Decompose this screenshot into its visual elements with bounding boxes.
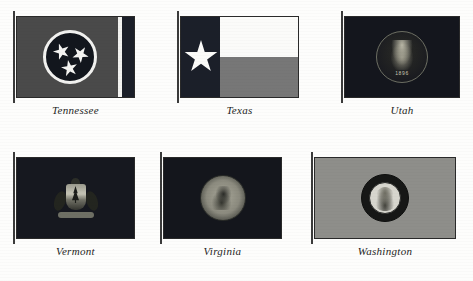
flag-cell-washington: Washington	[314, 157, 456, 239]
washington-portrait-icon	[375, 187, 395, 211]
flag-frame-washington	[314, 157, 456, 239]
flag-frame-vermont	[16, 157, 135, 239]
flag-frame-virginia	[163, 157, 282, 239]
flag-icon-utah: 1896	[344, 16, 460, 98]
flag-caption-tennessee: Tennessee	[16, 104, 135, 116]
state-flags-plate: Tennessee Texas 1896	[0, 0, 473, 281]
flagpole-tick	[13, 152, 15, 244]
pine-branch-icon	[83, 190, 100, 212]
star-icon	[58, 57, 81, 80]
lower-band	[220, 57, 298, 97]
star-icon	[50, 41, 71, 62]
flag-caption-washington: Washington	[314, 245, 456, 257]
flagpole-tick	[160, 152, 162, 244]
flag-frame-tennessee	[16, 16, 135, 98]
flag-icon-vermont	[16, 157, 135, 239]
state-seal-emblem: 1896	[376, 31, 428, 83]
flag-cell-texas: Texas	[180, 16, 299, 98]
flagpole-tick	[341, 11, 343, 103]
coat-of-arms-emblem	[54, 178, 98, 218]
flag-caption-texas: Texas	[180, 104, 299, 116]
hoist-band	[181, 17, 220, 97]
lone-star-icon	[184, 40, 218, 74]
flag-icon-virginia	[163, 157, 282, 239]
flag-frame-utah: 1896	[344, 16, 460, 98]
flagpole-tick	[311, 152, 313, 244]
flag-caption-virginia: Virginia	[163, 245, 282, 257]
flag-frame-texas	[180, 16, 299, 98]
flag-cell-tennessee: Tennessee	[16, 16, 135, 98]
flag-icon-washington	[314, 157, 456, 239]
flag-icon-texas	[180, 16, 299, 98]
seal-inner-disc	[369, 182, 401, 214]
washington-portrait-seal-emblem	[361, 174, 409, 222]
seal-device	[211, 186, 235, 210]
seal-date: 1896	[377, 70, 427, 76]
seal-device	[389, 40, 415, 70]
flag-caption-vermont: Vermont	[16, 245, 135, 257]
flag-cell-vermont: Vermont	[16, 157, 135, 239]
star-icon	[70, 44, 91, 65]
flag-caption-utah: Utah	[344, 104, 460, 116]
flagpole-tick	[177, 11, 179, 103]
flag-icon-tennessee	[16, 16, 135, 98]
circle-with-three-stars-emblem	[43, 30, 97, 84]
fly-bar	[122, 17, 134, 97]
motto-scroll	[58, 212, 94, 218]
state-seal-emblem	[200, 175, 246, 221]
flag-cell-virginia: Virginia	[163, 157, 282, 239]
flagpole-tick	[13, 11, 15, 103]
upper-band	[220, 17, 298, 57]
flag-cell-utah: 1896 Utah	[344, 16, 460, 98]
